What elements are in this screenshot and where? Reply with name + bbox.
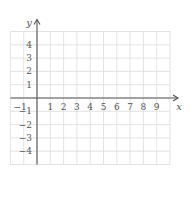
x-tick-labels: −1123456789: [13, 102, 159, 112]
x-tick-label: 8: [141, 102, 147, 112]
x-tick-label: 7: [127, 102, 133, 112]
x-tick-label: 5: [101, 102, 107, 112]
y-axis-label: y: [25, 17, 32, 28]
coordinate-grid: −1123456789 −4−3−2−11234 x y: [0, 0, 193, 206]
x-tick-label: 3: [74, 102, 80, 112]
y-tick-label: −1: [19, 106, 32, 116]
y-tick-label: 4: [26, 40, 32, 50]
x-tick-label: 9: [154, 102, 160, 112]
axes: [10, 20, 178, 165]
y-tick-label: −3: [19, 133, 33, 143]
x-tick-label: 2: [61, 102, 67, 112]
x-axis-label: x: [176, 101, 182, 112]
y-tick-label: −2: [19, 120, 32, 130]
x-tick-label: 1: [47, 102, 53, 112]
y-tick-label: 1: [26, 80, 32, 90]
x-tick-label: 6: [114, 102, 120, 112]
y-tick-label: 3: [26, 53, 32, 63]
y-tick-label: −4: [19, 146, 33, 156]
x-tick-label: 4: [87, 102, 93, 112]
y-tick-label: 2: [26, 66, 32, 76]
